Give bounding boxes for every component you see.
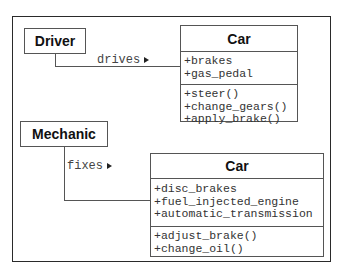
attribute: +brakes (184, 55, 294, 68)
class-name: Car (181, 26, 297, 52)
mechanic-box: Mechanic (20, 121, 108, 147)
operation: +change_oil() (154, 243, 320, 256)
car-class-bottom: Car +disc_brakes +fuel_injected_engine +… (150, 153, 324, 257)
fixes-connector-horizontal (64, 200, 150, 201)
attribute: +gas_pedal (184, 68, 294, 81)
drives-connector-vertical (55, 53, 56, 66)
operations-section: +adjust_brake() +change_oil() (151, 227, 323, 257)
direction-arrow-icon (107, 163, 112, 169)
direction-arrow-icon (144, 57, 149, 63)
mechanic-label: Mechanic (32, 126, 96, 142)
operation: +apply_brake() (184, 113, 294, 126)
operation: +adjust_brake() (154, 230, 320, 243)
fixes-association-label: fixes (67, 159, 112, 173)
driver-box: Driver (24, 28, 86, 54)
attributes-section: +disc_brakes +fuel_injected_engine +auto… (151, 179, 323, 227)
fixes-connector-vertical (64, 146, 65, 200)
attribute: +automatic_transmission (154, 208, 320, 221)
class-name: Car (151, 154, 323, 179)
driver-label: Driver (35, 33, 75, 49)
attribute: +disc_brakes (154, 183, 320, 196)
car-class-top: Car +brakes +gas_pedal +steer() +change_… (180, 25, 298, 122)
operations-section: +steer() +change_gears() +apply_brake() (181, 85, 297, 128)
attributes-section: +brakes +gas_pedal (181, 52, 297, 85)
operation: +steer() (184, 88, 294, 101)
drives-association-label: drives (97, 53, 149, 67)
